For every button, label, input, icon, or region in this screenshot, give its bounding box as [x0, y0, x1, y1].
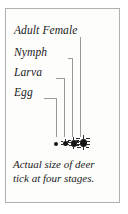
stage-label-nymph: Nymph — [14, 47, 47, 59]
leader-line-adult-female — [80, 37, 81, 137]
caption-line-1: Actual size of deer — [13, 157, 115, 171]
tick-life-stages-figure: Adult Female Nymph Larva Egg — [5, 8, 120, 203]
leader-line-nymph — [72, 58, 73, 137]
stage-label-egg: Egg — [14, 87, 33, 99]
figure-caption: Actual size of deer tick at four stages. — [13, 157, 115, 185]
stage-label-adult-female: Adult Female — [14, 25, 77, 37]
leader-line-larva — [64, 78, 65, 137]
stage-label-larva: Larva — [14, 67, 42, 79]
leader-line-egg — [56, 98, 57, 137]
tick-specimen-adult-female — [76, 135, 90, 150]
tick-specimen-egg — [53, 141, 59, 147]
caption-line-2: tick at four stages. — [13, 171, 115, 185]
